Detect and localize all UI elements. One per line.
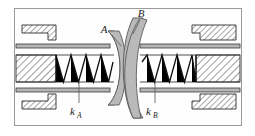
label-body-b: B xyxy=(138,7,145,19)
svg-text:A: A xyxy=(76,111,82,120)
right-spring-anchor-block xyxy=(196,55,240,82)
svg-text:B: B xyxy=(153,111,158,120)
left-spring-anchor-block xyxy=(16,55,56,82)
label-body-a: A xyxy=(100,23,108,35)
figure-container: A B k A k B xyxy=(0,0,255,136)
mechanism-diagram: A B k A k B xyxy=(0,0,255,136)
